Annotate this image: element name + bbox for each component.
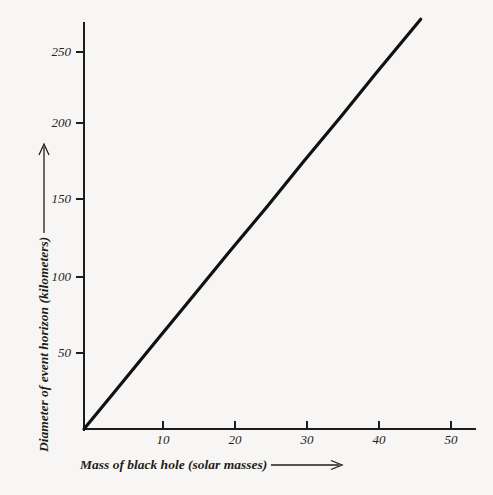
x-axis-title-text: Mass of black hole (solar masses) — [80, 457, 267, 473]
arrow-right-icon — [271, 459, 345, 471]
data-line-layer — [0, 0, 493, 495]
y-axis-title-text: Diameter of event horizon (kilometers) — [36, 237, 52, 452]
arrow-up-icon — [38, 141, 50, 233]
x-axis-title: Mass of black hole (solar masses) — [80, 457, 345, 473]
chart-figure: 50 100 150 200 250 10 20 30 40 50 Mass o… — [0, 0, 493, 495]
data-series-line — [84, 19, 421, 429]
y-axis-title: Diameter of event horizon (kilometers) — [33, 122, 55, 452]
